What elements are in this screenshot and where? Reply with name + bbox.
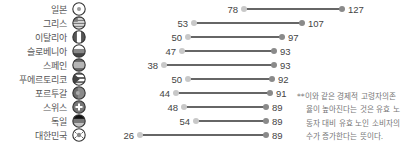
- start-dot: [185, 76, 191, 82]
- start-dot: [191, 20, 197, 26]
- end-dot: [271, 48, 277, 54]
- start-dot: [137, 132, 143, 138]
- end-value-label: 97: [288, 32, 299, 43]
- start-value-label: 44: [159, 88, 170, 99]
- end-value-label: 89: [272, 130, 283, 141]
- end-value-label: 89: [272, 116, 283, 127]
- country-label: 포르투갈: [35, 89, 67, 99]
- start-value-label: 78: [227, 4, 238, 15]
- end-dot: [339, 6, 345, 12]
- puerto-rico-flag-icon: [73, 73, 85, 85]
- country-label: 슬로베니아: [27, 47, 68, 57]
- country-label: 스페인: [43, 61, 67, 71]
- annotation-line: 율이 높아진다는 것은 유효 노: [297, 103, 401, 116]
- end-dot: [263, 104, 269, 110]
- country-label: 푸에르토리코: [19, 75, 67, 85]
- annotation-line: 수가 증가한다는 뜻이다.: [297, 130, 401, 143]
- country-label: 대한민국: [35, 131, 67, 141]
- end-dot: [279, 34, 285, 40]
- annotation-line: 동자 대비 유효 노인 소비자의: [297, 117, 401, 130]
- start-value-label: 54: [179, 116, 190, 127]
- germany-flag-icon: [73, 115, 85, 127]
- end-dot: [299, 20, 305, 26]
- end-value-label: 127: [348, 4, 364, 15]
- start-dot: [193, 118, 199, 124]
- end-value-label: 107: [308, 18, 324, 29]
- end-dot: [263, 118, 269, 124]
- start-value-label: 26: [123, 130, 134, 141]
- spain-flag-icon: [73, 59, 85, 71]
- italy-flag-icon: [73, 31, 85, 43]
- japan-flag-icon: [73, 3, 85, 15]
- greece-flag-icon: [73, 17, 85, 29]
- start-value-label: 50: [171, 32, 182, 43]
- start-value-label: 50: [171, 74, 182, 85]
- start-value-label: 38: [147, 60, 158, 71]
- south-korea-flag-icon: [73, 129, 85, 141]
- start-value-label: 53: [177, 18, 188, 29]
- start-dot: [181, 104, 187, 110]
- end-value-label: 89: [272, 102, 283, 113]
- switzerland-flag-icon: [73, 101, 85, 113]
- country-label: 일본: [51, 5, 67, 15]
- start-value-label: 47: [165, 46, 176, 57]
- end-dot: [269, 76, 275, 82]
- end-dot: [271, 62, 277, 68]
- start-dot: [161, 62, 167, 68]
- country-label: 이탈리아: [35, 33, 68, 43]
- country-label: 스위스: [43, 103, 67, 113]
- country-label: 그리스: [43, 19, 67, 29]
- end-dot: [267, 90, 273, 96]
- start-dot: [241, 6, 247, 12]
- start-dot: [179, 48, 185, 54]
- start-value-label: 48: [167, 102, 178, 113]
- end-value-label: 93: [280, 46, 291, 57]
- start-dot: [173, 90, 179, 96]
- end-value-label: 92: [278, 74, 289, 85]
- end-value-label: 91: [276, 88, 287, 99]
- slovenia-flag-icon: [73, 45, 85, 57]
- end-value-label: 93: [280, 60, 291, 71]
- portugal-flag-icon: [73, 87, 85, 99]
- country-label: 독일: [51, 117, 67, 127]
- end-dot: [263, 132, 269, 138]
- chart-annotation: **이와 같은 경제적 고령자의존 율이 높아진다는 것은 유효 노 동자 대비…: [297, 90, 401, 144]
- annotation-line: **이와 같은 경제적 고령자의존: [297, 90, 401, 103]
- start-dot: [185, 34, 191, 40]
